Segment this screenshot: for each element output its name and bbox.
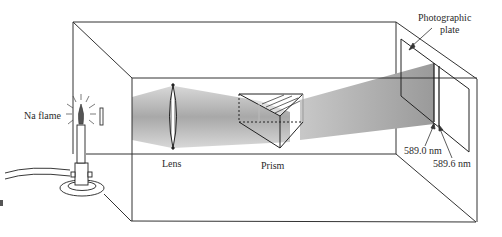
slit: [100, 108, 103, 125]
label-589-6-nm: 589.6 nm: [433, 158, 471, 169]
label-589-0-nm: 589.0 nm: [404, 145, 442, 156]
label-plate: plate: [440, 24, 460, 35]
bunsen-burner: [5, 125, 104, 196]
gas-hose-bottom: [5, 174, 70, 179]
box-bottom-left-depth-edge: [104, 194, 131, 221]
label-photographic: Photographic: [418, 12, 472, 23]
label-na-flame: Na flame: [24, 110, 61, 121]
box-front-bottom-edge: [131, 221, 476, 222]
gas-hose-top: [5, 168, 70, 173]
box-top-left-depth-edge: [73, 22, 132, 78]
spectroscope-diagram: Na flame Lens Prism Photographic plate 5…: [0, 0, 502, 237]
burner-collar: [75, 163, 88, 185]
cropped-edge-fragment: [0, 200, 3, 206]
plate-pointer-arrow: [411, 28, 432, 47]
light-beam-dispersed: [300, 63, 434, 140]
label-lens: Lens: [162, 158, 182, 169]
label-prism: Prism: [261, 160, 285, 171]
burner-tube: [77, 125, 85, 163]
589-0-pointer-arrow: [425, 127, 433, 146]
light-beam-divergent: [132, 86, 172, 148]
na-flame-icon: [66, 94, 96, 124]
